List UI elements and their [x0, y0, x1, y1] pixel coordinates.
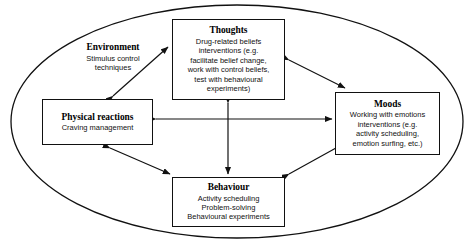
node-thoughts-body: Drug-related beliefs interventions (e.g.… — [185, 37, 273, 94]
figure-caption — [0, 239, 474, 249]
cbt-cycle-diagram: Environment Stimulus control techniques … — [0, 0, 474, 249]
node-behaviour-body: Activity scheduling Problem-solving Beha… — [184, 194, 273, 222]
node-moods-title: Moods — [374, 99, 401, 110]
node-physical-reactions: Physical reactions Craving management — [42, 99, 153, 145]
node-thoughts: Thoughts Drug-related beliefs interventi… — [172, 19, 285, 100]
node-behaviour-title: Behaviour — [208, 182, 250, 193]
arrow-physical-behaviour — [110, 148, 170, 174]
node-physical-reactions-title: Physical reactions — [62, 112, 134, 123]
node-behaviour: Behaviour Activity scheduling Problem-so… — [172, 177, 285, 227]
environment-title: Environment — [57, 42, 169, 53]
node-thoughts-title: Thoughts — [209, 25, 247, 36]
node-physical-reactions-body: Craving management — [59, 123, 137, 132]
environment-body: Stimulus control techniques — [57, 54, 169, 73]
node-moods: Moods Working with emotions intervention… — [335, 92, 440, 155]
environment-label-group: Environment Stimulus control techniques — [57, 42, 169, 72]
arrow-thoughts-moods — [289, 60, 345, 88]
node-moods-body: Working with emotions interventions (e.g… — [347, 110, 428, 148]
